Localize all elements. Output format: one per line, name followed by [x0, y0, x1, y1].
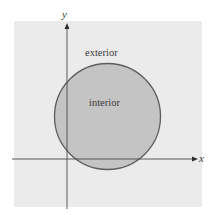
interior-region-circle: [55, 64, 161, 170]
exterior-label: exterior: [85, 47, 118, 58]
x-axis-label: x: [198, 152, 204, 164]
region-diagram: y x exterior interior: [0, 0, 208, 215]
interior-label: interior: [89, 97, 120, 108]
y-axis-label: y: [61, 8, 67, 20]
